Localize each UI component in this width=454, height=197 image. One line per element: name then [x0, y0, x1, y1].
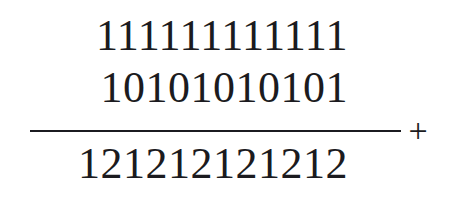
addend-value: 10101010101 [0, 66, 348, 110]
addition-problem: 111111111111 10101010101 + 121212121212 [0, 0, 454, 197]
sum-value: 121212121212 [0, 142, 348, 186]
plus-operator-icon: + [404, 114, 432, 148]
sum-rule-divider [30, 130, 401, 132]
augend-value: 111111111111 [0, 14, 348, 58]
